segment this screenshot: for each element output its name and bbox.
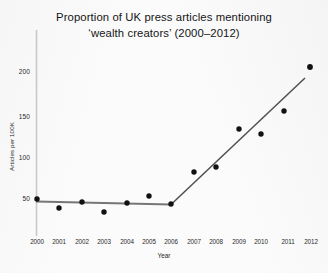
chart-figure: Proportion of UK press articles mentioni… bbox=[0, 0, 328, 273]
data-point bbox=[124, 200, 129, 205]
data-point bbox=[101, 209, 106, 214]
data-point bbox=[34, 196, 39, 201]
data-point bbox=[236, 126, 241, 131]
y-tick-label: 200 bbox=[4, 68, 30, 75]
y-tick-label: 50 bbox=[4, 195, 30, 202]
data-point bbox=[146, 193, 151, 198]
data-point bbox=[281, 108, 286, 113]
y-axis-label: Articles per 100K bbox=[8, 117, 15, 177]
plot-area bbox=[0, 0, 328, 273]
data-point bbox=[191, 169, 196, 174]
x-axis-label: Year bbox=[0, 252, 328, 259]
x-tick-label: 2010 bbox=[246, 238, 276, 245]
data-point bbox=[307, 64, 313, 70]
trend-line-rising bbox=[171, 78, 305, 205]
data-point bbox=[79, 199, 84, 204]
data-point bbox=[56, 205, 61, 210]
trend-line-flat bbox=[36, 202, 171, 205]
x-tick-label: 2012 bbox=[296, 238, 326, 245]
data-point bbox=[168, 201, 173, 206]
data-point bbox=[258, 131, 263, 136]
data-point bbox=[213, 164, 218, 169]
